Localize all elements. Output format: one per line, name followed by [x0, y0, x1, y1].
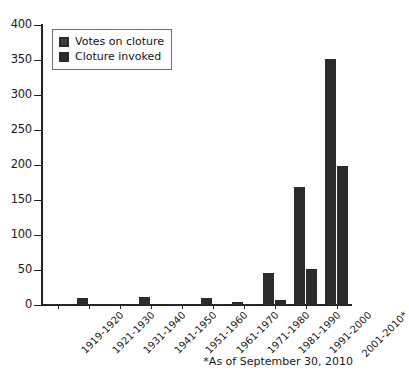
x-axis-tick	[58, 305, 59, 309]
bar	[337, 166, 348, 305]
y-axis-tick	[34, 305, 41, 306]
chart-footnote: *As of September 30, 2010	[203, 356, 353, 368]
legend-swatch-icon	[59, 37, 69, 47]
bar	[139, 297, 150, 305]
y-axis-tick-label: 100	[0, 229, 32, 241]
x-axis-tick	[89, 305, 90, 309]
y-axis-tick-label: 250	[0, 124, 32, 136]
bar	[108, 304, 119, 306]
legend-item-label: Votes on cloture	[75, 36, 164, 47]
y-axis-tick-label: 350	[0, 54, 32, 66]
bar	[244, 304, 255, 306]
bar	[294, 187, 305, 305]
bar	[325, 59, 336, 305]
bar	[89, 304, 100, 306]
legend-item-label: Cloture invoked	[75, 51, 161, 62]
x-axis-tick	[337, 305, 338, 309]
y-axis-tick	[34, 270, 41, 271]
y-axis-tick	[34, 165, 41, 166]
y-axis-tick	[34, 95, 41, 96]
y-axis-tick-label: 150	[0, 194, 32, 206]
legend-item-votes-on-cloture: Votes on cloture	[59, 34, 164, 49]
x-axis-tick	[182, 305, 183, 309]
legend-item-cloture-invoked: Cloture invoked	[59, 49, 164, 64]
y-axis-tick-label: 400	[0, 19, 32, 31]
bar-group	[259, 25, 290, 305]
bar	[275, 300, 286, 305]
bar	[170, 304, 181, 306]
bar	[263, 273, 274, 305]
x-axis-tick-labels: 1919-19201921-19301931-19401941-19501951…	[0, 306, 361, 352]
bar	[46, 304, 57, 306]
x-axis-tick	[120, 305, 121, 309]
bar	[306, 269, 317, 305]
y-axis-tick	[34, 200, 41, 201]
y-axis-tick-label: 50	[0, 264, 32, 276]
bar	[201, 298, 212, 305]
y-axis-tick	[34, 235, 41, 236]
bar-group	[290, 25, 321, 305]
x-axis-tick	[213, 305, 214, 309]
y-axis-tick-label: 200	[0, 159, 32, 171]
x-axis-tick	[151, 305, 152, 309]
bar	[232, 302, 243, 306]
chart-legend: Votes on cloture Cloture invoked	[52, 29, 172, 70]
y-axis-tick	[34, 130, 41, 131]
y-axis-tick	[34, 60, 41, 61]
bar	[213, 304, 224, 306]
x-axis-tick	[306, 305, 307, 309]
bar-group	[197, 25, 228, 305]
bar-group	[228, 25, 259, 305]
y-axis-tick-label: 300	[0, 89, 32, 101]
bar	[77, 298, 88, 305]
bar-group	[321, 25, 352, 305]
bar	[58, 304, 69, 306]
legend-swatch-icon	[59, 52, 69, 62]
x-axis-tick	[275, 305, 276, 309]
y-axis-tick	[34, 25, 41, 26]
x-axis-tick	[244, 305, 245, 309]
